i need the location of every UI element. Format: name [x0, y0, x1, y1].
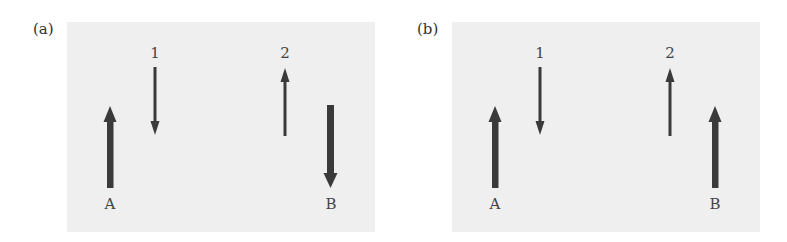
arrow-a-A-up-icon [104, 106, 117, 188]
arrow-b-1-down-icon [536, 67, 545, 135]
arrow-a-B-down-icon [324, 105, 338, 188]
arrow-a-2-up-icon [281, 68, 290, 136]
arrows-layer [0, 0, 787, 242]
label-a-B: B [325, 195, 336, 213]
label-b-A: A [490, 195, 501, 213]
label-b-2: 2 [665, 44, 675, 62]
label-a-1: 1 [150, 44, 160, 62]
label-b-B: B [709, 195, 720, 213]
label-a-2: 2 [280, 44, 290, 62]
label-b-1: 1 [535, 44, 545, 62]
arrow-b-B-up-icon [709, 106, 722, 188]
arrow-b-2-up-icon [666, 68, 675, 136]
arrow-a-1-down-icon [151, 67, 160, 135]
label-a-A: A [105, 195, 116, 213]
arrow-b-A-up-icon [489, 106, 502, 188]
